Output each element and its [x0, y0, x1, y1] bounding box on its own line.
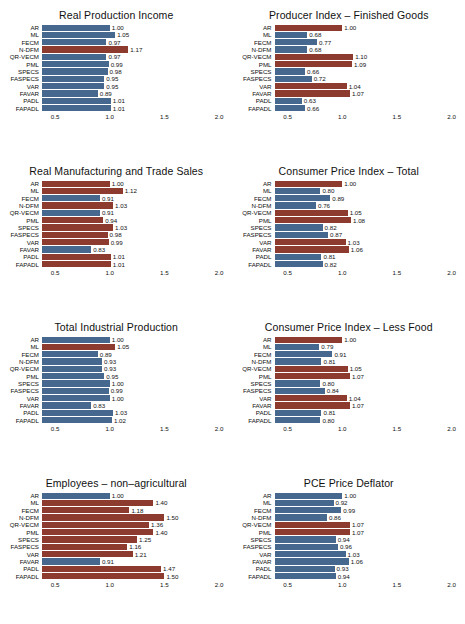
bar-track: 0.91 [275, 351, 458, 358]
bar [275, 566, 335, 572]
bar [275, 181, 343, 187]
bar-row: PML1.07 [275, 373, 458, 380]
bar [275, 105, 306, 111]
bar-track: 0.86 [275, 514, 458, 521]
bar-row: FAVAR0.91 [42, 558, 225, 565]
bar-row: ML0.79 [275, 343, 458, 350]
category-label-ar: AR [263, 336, 272, 343]
bar-value-label: 0.98 [110, 231, 122, 238]
plot-area: AR1.00ML1.40FECM1.18N-DFM1.50QR-VECM1.36… [42, 492, 225, 591]
bar-value-label: 1.09 [354, 61, 366, 68]
category-label-qr-vecm: QR-VECM [242, 521, 271, 528]
bar-value-label: 0.93 [337, 565, 349, 572]
bar-row: QR-VECM1.05 [275, 209, 458, 216]
bar-row: AR1.00 [275, 180, 458, 187]
bar-row: FAVAR1.07 [275, 402, 458, 409]
bar-track: 1.08 [275, 217, 458, 224]
category-label-ar: AR [263, 180, 272, 187]
x-axis-tick: 0.5 [283, 269, 292, 277]
bar [275, 224, 323, 230]
category-label-favar: FAVAR [20, 90, 39, 97]
category-label-padl: PADL [23, 409, 39, 416]
category-label-favar: FAVAR [20, 558, 39, 565]
bar-track: 0.89 [42, 90, 225, 97]
plot-area: AR1.00ML1.05FECM0.97N-DFM1.17QR-VECM0.97… [42, 24, 225, 123]
multi-panel-bar-chart-figure: Real Production IncomeAR1.00ML1.05FECM0.… [0, 0, 465, 624]
bar-row: FECM0.89 [275, 195, 458, 202]
bar-track: 0.81 [275, 409, 458, 416]
bar-row: PML1.40 [42, 529, 225, 536]
bar [42, 558, 100, 564]
chart-panel: Consumer Price Index – Less FoodAR1.00ML… [233, 312, 465, 468]
bar-value-label: 1.01 [113, 261, 125, 268]
bar [42, 351, 98, 357]
category-label-favar: FAVAR [252, 246, 271, 253]
bar-value-label: 0.95 [106, 83, 118, 90]
category-label-faspecs: FASPECS [243, 543, 272, 550]
bar-row: FASPECS0.99 [42, 387, 225, 394]
category-label-favar: FAVAR [252, 402, 271, 409]
bar-track: 0.66 [275, 105, 458, 112]
bar [275, 61, 353, 67]
category-label-padl: PADL [256, 409, 272, 416]
bar-track: 1.03 [275, 239, 458, 246]
bar [275, 551, 346, 557]
bar-track: 1.21 [42, 551, 225, 558]
bar-value-label: 0.83 [93, 246, 105, 253]
bar-value-label: 0.81 [323, 253, 335, 260]
category-label-padl: PADL [23, 565, 39, 572]
x-axis-tick: 1.5 [160, 113, 169, 121]
category-label-var: VAR [27, 239, 39, 246]
plot-area: AR1.00ML0.79FECM0.91N-DFM0.81QR-VECM1.05… [275, 336, 458, 435]
bar-track: 1.40 [42, 499, 225, 506]
category-label-ar: AR [263, 492, 272, 499]
bar [42, 210, 100, 216]
bar [275, 217, 351, 223]
bar-value-label: 0.89 [100, 351, 112, 358]
bar-row: QR-VECM0.97 [42, 53, 225, 60]
category-label-var: VAR [27, 395, 39, 402]
bar-track: 1.25 [42, 536, 225, 543]
category-label-fecm: FECM [21, 507, 39, 514]
bar [42, 373, 104, 379]
bar-track: 0.95 [42, 83, 225, 90]
category-label-var: VAR [259, 83, 271, 90]
bar-row: SPECS0.80 [275, 380, 458, 387]
bar [275, 32, 308, 38]
x-axis-tick: 0.5 [51, 425, 60, 433]
bar-row: ML1.40 [42, 499, 225, 506]
bar-row: PADL0.93 [275, 565, 458, 572]
bar-track: 0.99 [42, 239, 225, 246]
bar [42, 551, 133, 557]
category-label-ml: ML [263, 31, 272, 38]
bar-value-label: 0.91 [102, 558, 114, 565]
bar-value-label: 0.66 [307, 68, 319, 75]
bar-value-label: 0.84 [327, 387, 339, 394]
bar-value-label: 1.21 [135, 551, 147, 558]
bar-value-label: 0.99 [111, 239, 123, 246]
bar-track: 0.91 [42, 195, 225, 202]
bar [275, 344, 320, 350]
bar [275, 544, 338, 550]
bar [42, 573, 164, 579]
bar [275, 90, 350, 96]
bar-row: VAR1.04 [275, 83, 458, 90]
bar-value-label: 0.97 [108, 53, 120, 60]
bar-row: FAVAR0.89 [42, 90, 225, 97]
bar-value-label: 0.79 [321, 343, 333, 350]
category-label-n-dfm: N-DFM [19, 202, 39, 209]
bar-row: PADL1.47 [42, 565, 225, 572]
category-label-faspecs: FASPECS [243, 75, 272, 82]
category-label-ar: AR [30, 336, 39, 343]
plot-area: AR1.00ML0.68FECM0.77N-DFM0.68QR-VECM1.10… [275, 24, 458, 123]
bar-row: SPECS0.94 [275, 536, 458, 543]
category-label-ml: ML [30, 31, 39, 38]
bar-value-label: 0.99 [111, 61, 123, 68]
bar-row: AR1.00 [275, 492, 458, 499]
bar-row: PML0.94 [42, 217, 225, 224]
category-label-fecm: FECM [21, 39, 39, 46]
bar-row: ML1.12 [42, 187, 225, 194]
bar-value-label: 1.06 [351, 558, 363, 565]
x-axis-tick: 2.0 [447, 113, 456, 121]
bar-track: 0.68 [275, 46, 458, 53]
